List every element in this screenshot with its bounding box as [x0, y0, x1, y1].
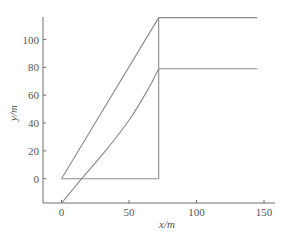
y-ticks: 020406080100 [23, 34, 47, 185]
y-axis-label: y/m [7, 105, 19, 122]
y-tick-label: 100 [23, 34, 40, 46]
x-tick-label: 150 [256, 206, 273, 218]
y-tick-label: 80 [28, 61, 40, 73]
x-tick-label: 50 [124, 206, 136, 218]
y-tick-label: 20 [28, 145, 40, 157]
chart: 020406080100 050100150 x/m y/m [0, 0, 285, 235]
x-tick-label: 100 [188, 206, 205, 218]
y-tick-label: 40 [28, 117, 40, 129]
y-tick-label: 0 [34, 173, 40, 185]
series-group [62, 18, 258, 203]
y-tick-label: 60 [28, 89, 40, 101]
x-axis-label: x/m [158, 218, 175, 230]
plot-area: 020406080100 050100150 x/m y/m [7, 17, 275, 230]
x-tick-label: 0 [59, 206, 65, 218]
series-upper-trajectory [62, 18, 258, 179]
series-lower-curve [62, 69, 258, 203]
